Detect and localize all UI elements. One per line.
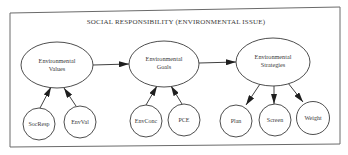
edge-goals-to-strategies (199, 62, 236, 63)
node-label: EnvConc (135, 118, 158, 124)
node-screen: Screen (259, 104, 291, 136)
node-label-line2: Goals (157, 63, 172, 70)
diagram-canvas: SOCIAL RESPONSIBILITY (ENVIRONMENTAL ISS… (0, 0, 348, 155)
edge-envconc-to-goals (146, 86, 157, 105)
edge-strategies-to-weight (288, 83, 303, 102)
node-label-line1: Environmental (146, 55, 183, 62)
edge-values-to-goals (93, 64, 129, 65)
node-environmental-values: Environmental Values (21, 42, 93, 88)
diagram-title: SOCIAL RESPONSIBILITY (ENVIRONMENTAL ISS… (87, 18, 266, 26)
node-label-line1: Environmental (255, 53, 292, 60)
node-label: Weight (304, 115, 322, 121)
node-label-line2: Strategies (261, 61, 286, 68)
node-environmental-goals: Environmental Goals (129, 41, 199, 87)
node-socresp: SocResp (23, 108, 55, 140)
edge-strategies-to-plan (246, 84, 260, 105)
node-label: PCE (178, 117, 189, 123)
node-label-line1: Environmental (39, 57, 76, 64)
node-envconc: EnvConc (130, 105, 162, 137)
node-label: SocResp (29, 121, 50, 127)
edge-socresp-to-values (40, 87, 51, 108)
node-envval: EnvVal (64, 106, 96, 138)
node-label: Plan (231, 118, 242, 124)
node-pce: PCE (168, 104, 200, 136)
node-label: EnvVal (71, 119, 89, 125)
edge-pce-to-goals (171, 86, 182, 104)
node-label: Screen (267, 117, 283, 123)
node-plan: Plan (220, 105, 252, 137)
node-label-line2: Values (49, 65, 66, 72)
node-environmental-strategies: Environmental Strategies (236, 38, 310, 86)
edge-envval-to-values (64, 88, 76, 106)
node-weight: Weight (297, 102, 330, 135)
